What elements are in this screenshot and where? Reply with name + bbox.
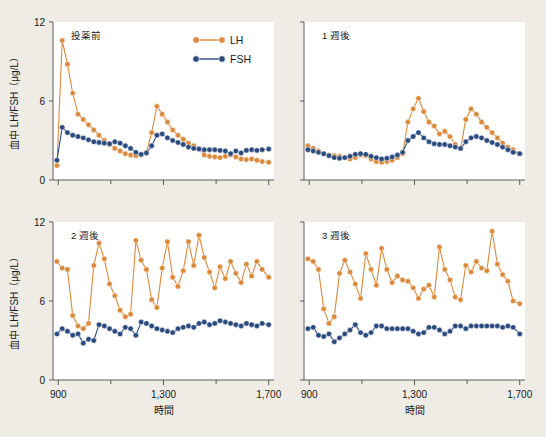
data-point-fsh (138, 319, 143, 324)
data-point-lh (191, 263, 196, 268)
data-point-lh (342, 257, 347, 262)
data-point-fsh (91, 139, 96, 144)
data-point-lh (447, 277, 452, 282)
data-point-fsh (128, 146, 133, 151)
data-point-lh (426, 119, 431, 124)
data-point-fsh (468, 323, 473, 328)
data-point-fsh (259, 321, 264, 326)
data-point-fsh (363, 333, 368, 338)
data-point-fsh (353, 152, 358, 157)
data-point-fsh (191, 325, 196, 330)
data-point-fsh (474, 323, 479, 328)
data-point-lh (332, 314, 337, 319)
data-point-fsh (223, 148, 228, 153)
data-point-lh (60, 38, 65, 43)
data-point-fsh (244, 321, 249, 326)
data-point-lh (96, 133, 101, 138)
panel-title: 投薬前 (71, 30, 101, 41)
data-point-fsh (81, 340, 86, 345)
data-point-fsh (389, 326, 394, 331)
data-point-fsh (254, 148, 259, 153)
data-point-lh (389, 280, 394, 285)
data-point-lh (379, 246, 384, 251)
data-point-lh (510, 298, 515, 303)
data-point-lh (149, 130, 154, 135)
data-point-fsh (266, 146, 271, 151)
data-point-fsh (159, 131, 164, 136)
data-point-fsh (249, 147, 254, 152)
data-point-fsh (316, 333, 321, 338)
data-point-lh (353, 281, 358, 286)
data-point-lh (374, 283, 379, 288)
data-point-lh (212, 285, 217, 290)
data-point-lh (91, 127, 96, 132)
data-point-lh (238, 156, 243, 161)
data-point-fsh (311, 148, 316, 153)
data-point-fsh (191, 146, 196, 151)
data-point-fsh (484, 323, 489, 328)
data-point-lh (91, 263, 96, 268)
data-point-fsh (326, 331, 331, 336)
data-point-fsh (207, 147, 212, 152)
data-point-lh (244, 261, 249, 266)
data-point-lh (316, 267, 321, 272)
data-point-fsh (510, 325, 515, 330)
data-point-fsh (165, 329, 170, 334)
data-point-lh (128, 311, 133, 316)
data-point-lh (326, 321, 331, 326)
data-point-fsh (154, 133, 159, 138)
panel-title: 2 週後 (71, 230, 99, 241)
data-point-fsh (186, 323, 191, 328)
data-point-fsh (112, 139, 117, 144)
data-point-lh (154, 104, 159, 109)
panel-title: 3 週後 (322, 230, 350, 241)
data-point-lh (463, 263, 468, 268)
data-point-fsh (223, 319, 228, 324)
data-point-fsh (437, 142, 442, 147)
legend-marker-fsh (193, 56, 199, 62)
legend-marker-lh (193, 37, 199, 43)
data-point-fsh (321, 334, 326, 339)
data-point-fsh (442, 331, 447, 336)
data-point-fsh (123, 143, 128, 148)
data-point-lh (54, 163, 59, 168)
data-point-lh (259, 267, 264, 272)
data-point-lh (154, 305, 159, 310)
data-point-lh (254, 259, 259, 264)
data-point-lh (117, 308, 122, 313)
data-point-fsh (379, 156, 384, 161)
data-point-lh (347, 269, 352, 274)
data-point-lh (65, 61, 70, 66)
data-point-lh (149, 297, 154, 302)
data-point-fsh (500, 325, 505, 330)
data-point-fsh (347, 154, 352, 159)
data-point-fsh (484, 138, 489, 143)
data-point-fsh (217, 148, 222, 153)
data-point-fsh (102, 140, 107, 145)
data-point-fsh (212, 147, 217, 152)
data-point-fsh (517, 331, 522, 336)
data-point-lh (337, 271, 342, 276)
data-point-fsh (196, 146, 201, 151)
legend-label-fsh: FSH (230, 53, 251, 65)
x-tick-label: 900 (50, 389, 67, 400)
data-point-fsh (175, 326, 180, 331)
data-point-lh (266, 275, 271, 280)
data-point-fsh (321, 151, 326, 156)
data-point-fsh (149, 143, 154, 148)
data-point-fsh (337, 156, 342, 161)
data-point-lh (223, 154, 228, 159)
panel-top-right: 1 週後 (300, 22, 525, 185)
data-point-lh (368, 267, 373, 272)
data-point-lh (175, 284, 180, 289)
data-point-fsh (138, 152, 143, 157)
data-point-lh (54, 259, 59, 264)
data-point-fsh (228, 321, 233, 326)
data-point-fsh (395, 326, 400, 331)
data-point-lh (489, 130, 494, 135)
data-point-lh (60, 265, 65, 270)
data-point-lh (410, 106, 415, 111)
data-point-fsh (358, 330, 363, 335)
data-point-lh (207, 154, 212, 159)
data-point-fsh (202, 147, 207, 152)
